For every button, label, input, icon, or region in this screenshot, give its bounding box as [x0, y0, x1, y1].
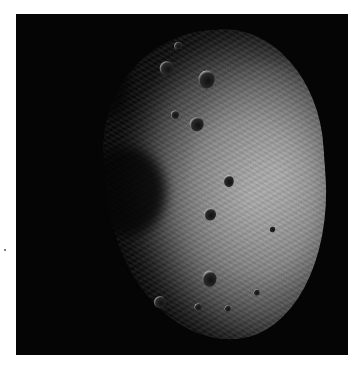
asteroid-body: [95, 23, 336, 348]
photo-frame: [16, 14, 348, 355]
edge-speck: [4, 249, 6, 251]
